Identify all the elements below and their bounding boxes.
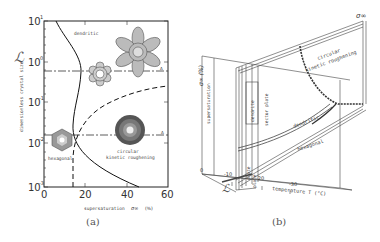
supersaturation-axis-label: supersaturation <box>206 83 211 124</box>
y-tick-labels: 10 1 10 0 10 -1 10 -2 10 -3 <box>28 14 44 193</box>
region-label-kinetic-roughening: kinetic roughening <box>106 155 155 160</box>
crystal-circular-icon <box>115 115 145 145</box>
sigma-top-label: σ∞ <box>356 12 366 20</box>
region-label-hexagonal: hexagonal <box>48 156 73 161</box>
y-tick-base: 10 <box>28 57 41 68</box>
region-label-dendrite: dendrite <box>250 100 255 122</box>
y-tick-base: 10 <box>28 16 41 27</box>
t-tick-label: -10 <box>224 171 232 177</box>
y-tick-exp: -1 <box>39 95 44 101</box>
x-tick-label: 60 <box>161 189 174 200</box>
x-tick-label: 20 <box>79 189 92 200</box>
region-label-sector-plate: sector plate <box>264 93 269 126</box>
region-label-circular: circular <box>117 149 139 154</box>
crystal-dendrite-icon <box>113 27 162 77</box>
arrow-marker: A <box>161 130 164 135</box>
panel-a: 10 1 10 0 10 -1 10 -2 10 -3 ℒ dimensionl… <box>14 14 174 227</box>
y-axis-label: dimensionless crystal size <box>19 61 24 132</box>
x-axis-unit: (%) <box>145 206 153 211</box>
x-axis-symbol: σ∞ <box>131 205 138 211</box>
x-tick-label: 40 <box>121 189 134 200</box>
temperature-axis-label: temperature T (°C) <box>272 185 327 198</box>
t-tick-label: 0 <box>200 167 203 173</box>
x-tick-labels: 0 20 40 60 <box>41 189 174 200</box>
y-tick-exp: 0 <box>40 55 43 61</box>
t-tick-label: -20 <box>256 175 264 181</box>
panel-b-labels: σ∞ (%) supersaturation σ∞ dendrite secto… <box>197 12 366 227</box>
y-tick-exp: -3 <box>39 180 44 186</box>
region-label-plate: plate <box>246 166 251 180</box>
panel-b <box>202 21 366 194</box>
y-tick-exp: 1 <box>40 14 43 20</box>
crystal-hexagon-icon <box>52 129 72 151</box>
x-tick-label: 0 <box>41 189 47 200</box>
region-label-dendritic: dendritic <box>74 31 99 36</box>
crystal-small-lobed-icon <box>89 62 111 86</box>
caption-b: (b) <box>272 216 286 227</box>
x-axis-label: supersaturation <box>84 206 125 211</box>
L-axis-label: ℒ <box>222 182 231 195</box>
arrow-marker: A <box>160 66 163 71</box>
caption-a: (a) <box>86 216 100 227</box>
front-top-edge <box>236 21 363 68</box>
y-tick-exp: -2 <box>39 136 44 142</box>
figure: 10 1 10 0 10 -1 10 -2 10 -3 ℒ dimensionl… <box>0 0 380 242</box>
sigma-axis-label: σ∞ (%) <box>197 65 204 86</box>
